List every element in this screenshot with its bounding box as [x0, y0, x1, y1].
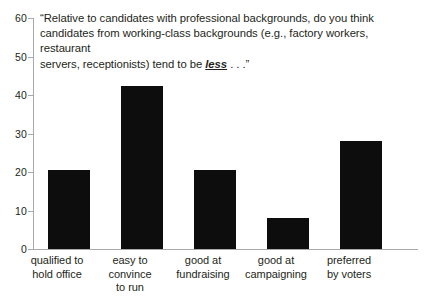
x-label-line: good at: [185, 254, 221, 266]
y-tick-label-10: 10: [3, 206, 27, 217]
bar-chart-figure: “Relative to candidates with professiona…: [0, 0, 425, 303]
x-axis-line: [33, 249, 418, 250]
bar-qualified-to-hold-office: [48, 170, 90, 249]
x-label-line: to run: [116, 281, 144, 293]
y-tick-label-0: 0: [3, 244, 27, 255]
y-tick-label-50: 50: [3, 52, 27, 63]
plot-area: [33, 18, 418, 249]
bar-preferred-by-voters: [340, 141, 382, 249]
bar-good-at-campaigning: [267, 218, 309, 249]
bar-good-at-fundraising: [194, 170, 236, 249]
x-label-line: convince: [108, 268, 151, 280]
y-tick-label-40: 40: [3, 90, 27, 101]
bar-easy-to-convince-to-run: [121, 86, 163, 249]
x-label-line: campaigning: [245, 268, 307, 280]
x-label-preferred-by-voters: preferred by voters: [304, 254, 394, 281]
x-label-line: good at: [258, 254, 294, 266]
x-label-line: by voters: [327, 268, 371, 280]
y-tick-label-30: 30: [3, 129, 27, 140]
y-tick-label-20: 20: [3, 167, 27, 178]
x-label-line: preferred: [327, 254, 371, 266]
x-label-line: qualified to: [31, 254, 84, 266]
y-tick-label-60: 60: [3, 13, 27, 24]
x-label-line: hold office: [32, 268, 81, 280]
x-label-line: easy to: [112, 254, 147, 266]
x-label-line: fundraising: [176, 268, 229, 280]
